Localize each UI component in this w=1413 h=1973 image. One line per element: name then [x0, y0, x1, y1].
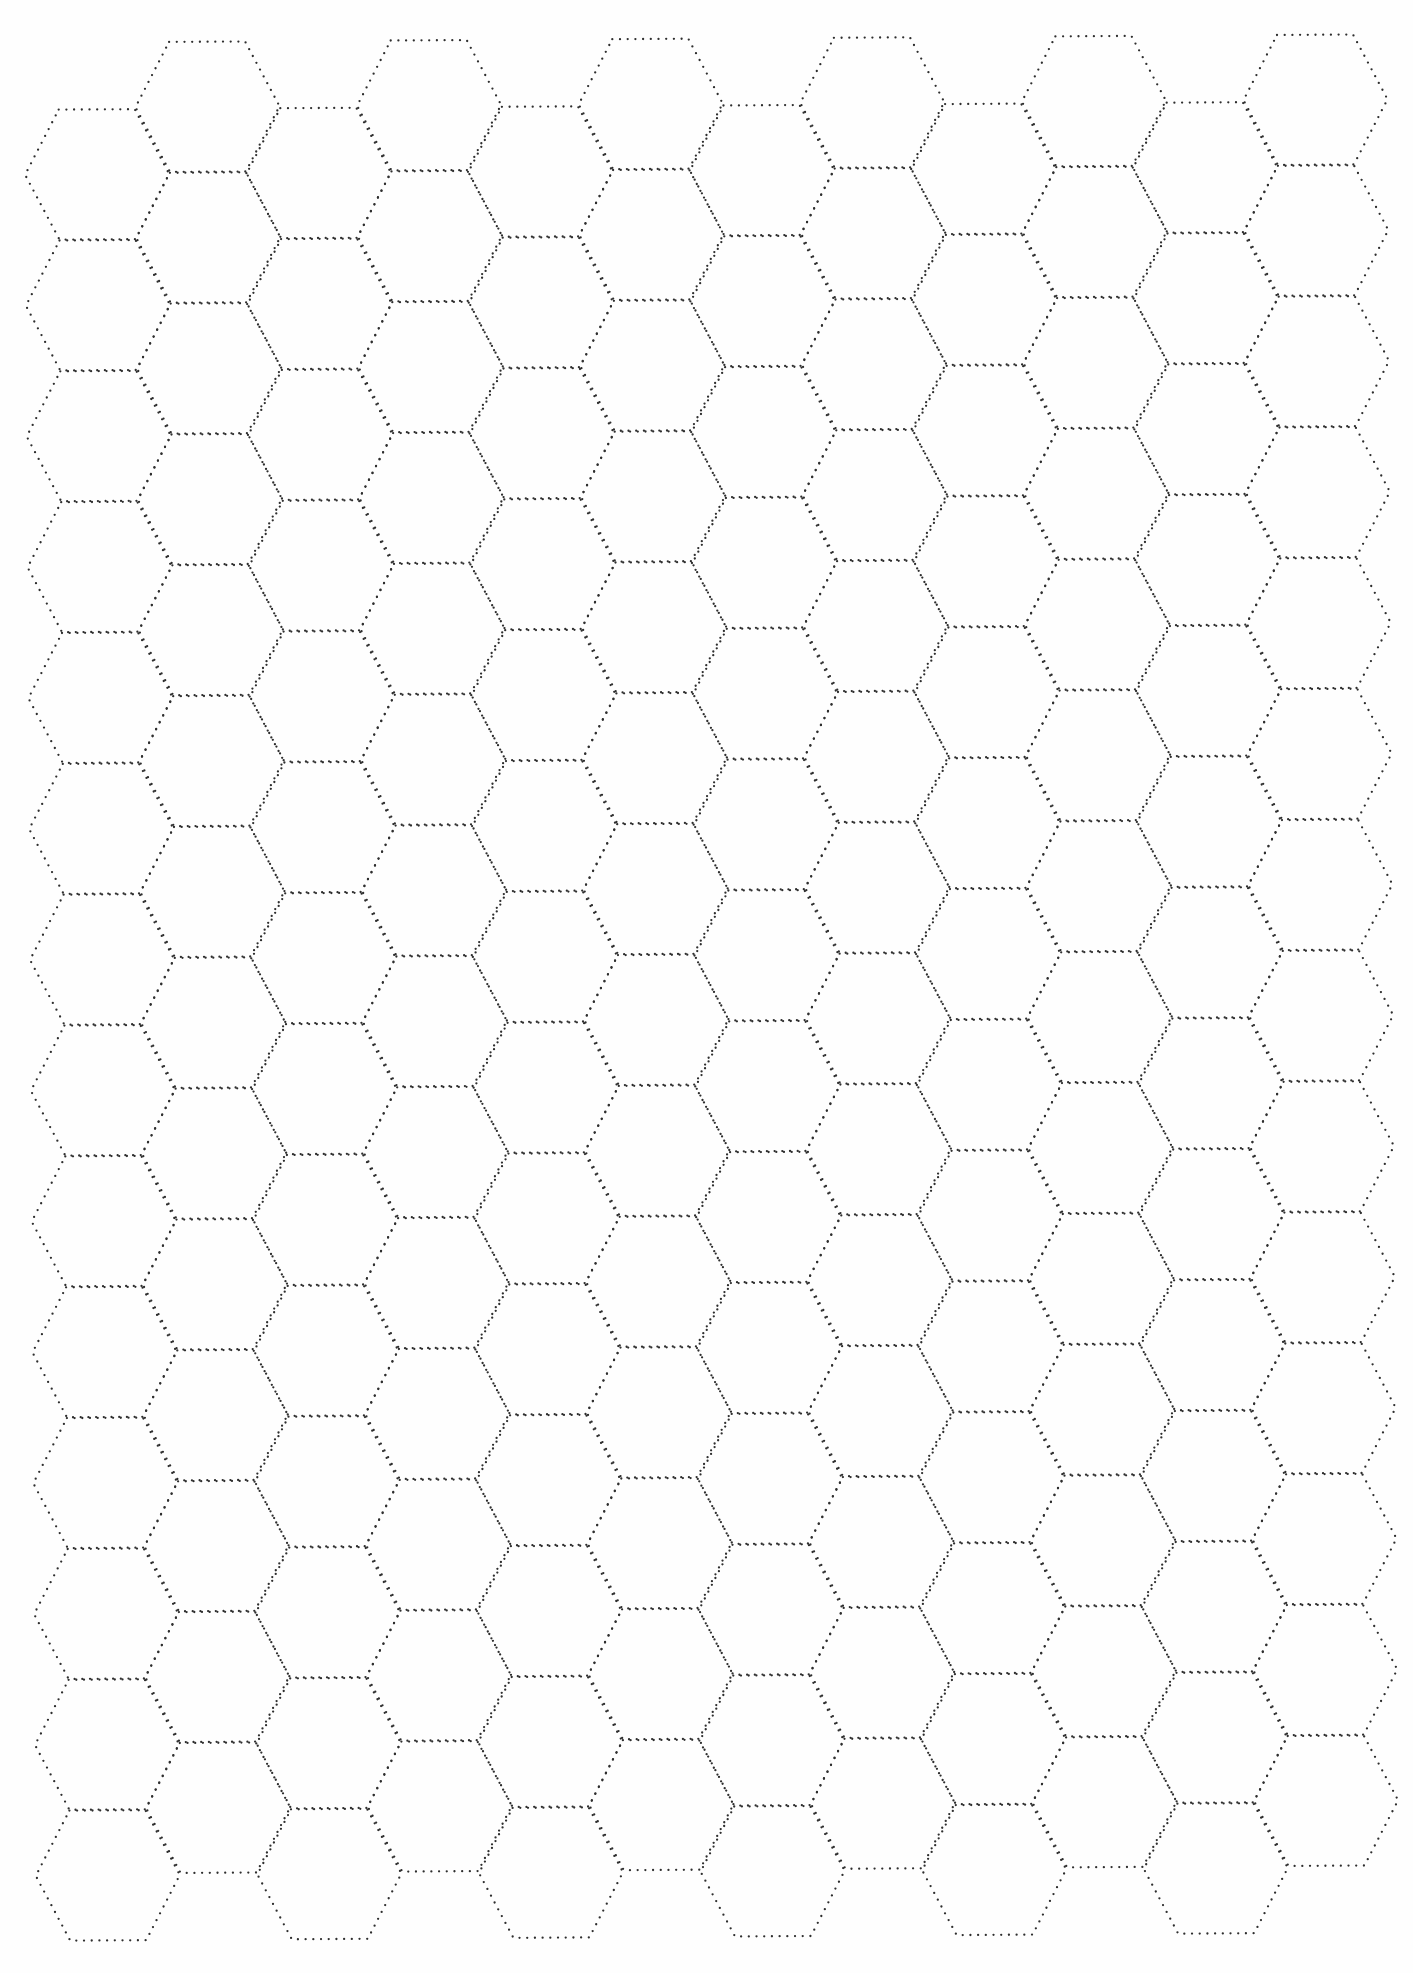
hexagon-cell: [139, 565, 283, 695]
hexagon-cell: [1251, 1212, 1395, 1343]
hexagon-cell: [1030, 1344, 1174, 1474]
hexagon-cell: [138, 434, 282, 565]
hexagon-grid: [0, 0, 1413, 1973]
hexagon-cell: [1025, 559, 1169, 690]
hexagon-cell: [366, 1479, 510, 1610]
hexagon-cell: [805, 822, 949, 952]
hexagon-cell: [364, 1087, 508, 1218]
hexagon-cell: [1023, 167, 1167, 298]
hexagon-cell: [361, 694, 505, 825]
hexagon-cell: [582, 562, 726, 692]
hexagon-cell: [1252, 1343, 1396, 1473]
hexagon-cell: [1244, 165, 1388, 295]
hexagon-cell: [1247, 558, 1391, 689]
hexagon-cell: [800, 37, 944, 168]
hexagon-cell: [803, 430, 947, 561]
hexagon-cell: [804, 561, 948, 691]
hexagon-cell: [363, 956, 507, 1087]
hexagon-cell: [802, 299, 946, 430]
hexagon-cell: [586, 1216, 730, 1347]
hexagon-cell: [1250, 1081, 1394, 1212]
hexagon-cell: [588, 1478, 732, 1609]
hexagon-cell: [1028, 952, 1172, 1083]
hexagon-cell: [1248, 689, 1392, 820]
hexagon-cell: [581, 431, 725, 562]
hexagon-cell: [580, 170, 724, 301]
hexagon-layer: [25, 35, 1398, 1941]
hexagon-cell: [1253, 1605, 1397, 1735]
hexagon-cell: [589, 1609, 733, 1740]
hexagon-cell: [579, 39, 723, 170]
hexagon-cell: [359, 302, 503, 432]
hexagon-cell: [362, 825, 506, 955]
hexagon-cell: [589, 1740, 733, 1871]
hexagon-cell: [584, 955, 728, 1086]
hexagon-cell: [1029, 1214, 1173, 1345]
hexagon-cell: [145, 1612, 289, 1743]
hexagon-cell: [137, 303, 281, 433]
hexagon-cell: [365, 1218, 509, 1349]
hexagon-cell: [585, 1086, 729, 1216]
hexagon-cell: [141, 957, 285, 1088]
hexagon-cell: [136, 42, 280, 172]
hexagon-cell: [1031, 1475, 1175, 1606]
hexagon-cell: [1249, 950, 1393, 1081]
hexagon-cell: [1248, 820, 1392, 951]
hexagon-cell: [1024, 298, 1168, 429]
hexagon-cell: [1254, 1736, 1398, 1867]
hexagon-cell: [365, 1349, 509, 1480]
hexagon-cell: [1253, 1474, 1397, 1605]
hexagon-cell: [140, 827, 284, 958]
hexagon-cell: [807, 1084, 951, 1214]
hexagon-cell: [367, 1610, 511, 1741]
hexagon-cell: [584, 824, 728, 954]
hexagon-cell: [809, 1477, 953, 1608]
hexagon-cell: [143, 1219, 287, 1350]
hexagon-cell: [368, 1741, 512, 1872]
hexagon-cell: [808, 1215, 952, 1346]
hexagon-cell: [136, 172, 280, 302]
hexagon-cell: [1027, 821, 1171, 952]
hexagon-cell: [1022, 36, 1166, 167]
hexagon-cell: [1032, 1606, 1176, 1736]
hexagon-cell: [1026, 690, 1170, 821]
hexagon-cell: [810, 1608, 954, 1738]
hexagon-cell: [1028, 1083, 1172, 1213]
hexagon-cell: [1246, 427, 1390, 558]
hexagon-cell: [587, 1347, 731, 1477]
hexagon-cell: [1244, 35, 1388, 166]
hexagon-cell: [1024, 428, 1168, 559]
hexagon-cell: [1245, 296, 1389, 427]
hexagon-cell: [804, 692, 948, 823]
hexagon-cell: [360, 564, 504, 694]
hexagon-cell: [140, 696, 284, 827]
hexagon-cell: [144, 1350, 288, 1481]
hexagon-cell: [811, 1738, 955, 1869]
hexagon-cell: [145, 1481, 289, 1612]
hexagon-cell: [1033, 1737, 1177, 1868]
hexagon-cell: [358, 171, 502, 302]
hexagon-cell: [357, 40, 501, 170]
hexagon-cell: [580, 300, 724, 430]
grid-paper-page: Hexagonal grid paper: [0, 0, 1413, 1973]
hexagon-cell: [806, 953, 950, 1083]
hexagon-cell: [146, 1743, 290, 1874]
hexagon-cell: [142, 1088, 286, 1219]
hexagon-cell: [360, 433, 504, 563]
hexagon-cell: [809, 1346, 953, 1476]
hexagon-cell: [583, 693, 727, 824]
hexagon-cell: [801, 168, 945, 299]
